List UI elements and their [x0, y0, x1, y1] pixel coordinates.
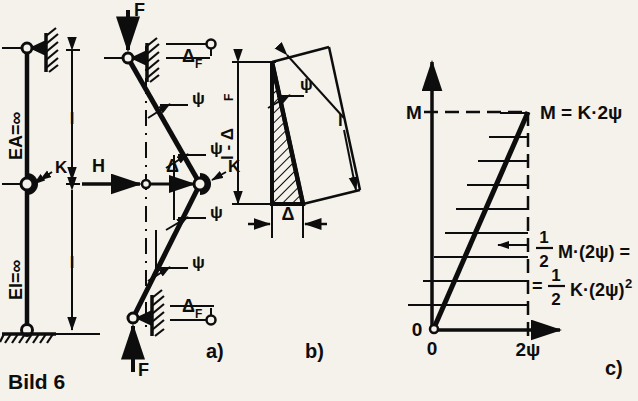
c-origin-marker: [430, 325, 438, 333]
label-delta-F-bottom-subscript: F: [195, 307, 202, 321]
label-delta-F-top: Δ: [182, 46, 195, 66]
c-fraction-denominator-1: 2: [539, 252, 548, 271]
label-member-length: l: [338, 111, 343, 130]
c-area-formula-equals-2: =: [532, 276, 543, 296]
c-area-formula-exponent: 2: [625, 276, 632, 291]
c-fraction-numerator-1: 1: [539, 228, 548, 247]
label-length-upper: l: [70, 109, 75, 128]
c-area-formula-rest-2: K·(2ψ): [570, 280, 625, 300]
label-F-bottom: F: [138, 360, 149, 380]
panel-label-c: c): [605, 357, 623, 379]
label-EA-infinite: EA=∞: [6, 111, 26, 160]
c-origin-y: 0: [412, 319, 423, 340]
c-peak-equation: M = K·2ψ: [540, 102, 622, 123]
label-l-minus-deltaF: l - Δ: [218, 128, 237, 160]
panel-label-a: a): [206, 340, 224, 362]
panel-label-b: b): [305, 340, 324, 362]
label-length-lower: l: [70, 253, 75, 272]
label-psi-3: ψ: [210, 203, 223, 222]
c-area-formula-rest-1: M·(2ψ) =: [558, 242, 630, 262]
c-ylabel-M: M: [406, 102, 422, 123]
label-delta-F-top-subscript: F: [195, 57, 202, 71]
c-fraction-numerator-2: 1: [551, 266, 560, 285]
label-delta-F-bottom: Δ: [182, 296, 195, 316]
label-K-left: K: [55, 158, 68, 177]
label-delta-b: Δ: [282, 204, 295, 224]
engineering-figure: K EA=∞ EI=∞ l: [0, 0, 638, 401]
label-psi-4: ψ: [192, 253, 205, 272]
label-F-top: F: [134, 0, 145, 20]
label-H: H: [92, 156, 105, 176]
figure-caption: Bild 6: [8, 370, 65, 393]
c-xtick-2psi: 2ψ: [516, 339, 541, 360]
c-fraction-denominator-2: 2: [551, 290, 560, 309]
c-origin-x: 0: [427, 338, 438, 359]
label-l-minus-deltaF-subscript: F: [222, 94, 236, 101]
figure-canvas: K EA=∞ EI=∞ l: [0, 0, 638, 401]
label-psi-1: ψ: [192, 89, 205, 108]
label-EI-infinite: EI=∞: [6, 259, 26, 300]
label-psi-b: ψ: [300, 75, 313, 94]
